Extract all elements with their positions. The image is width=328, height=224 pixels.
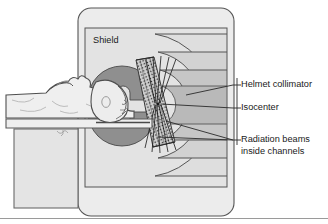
callout-label-radiation-beams: Radiation beams <box>241 134 310 144</box>
table-top <box>6 119 152 128</box>
radiosurgery-diagram: Shield Helmet collimator Isocenter Radia… <box>0 0 328 224</box>
callout-label-isocenter: Isocenter <box>241 102 279 112</box>
callout-label-helmet-collimator: Helmet collimator <box>241 79 312 89</box>
callout-label-radiation-beams-line2: inside channels <box>241 146 305 156</box>
diagram-canvas: Shield Helmet collimator Isocenter Radia… <box>0 0 328 224</box>
shield-label: Shield <box>93 35 119 45</box>
table-base <box>14 129 78 208</box>
isocenter-point <box>156 102 159 105</box>
